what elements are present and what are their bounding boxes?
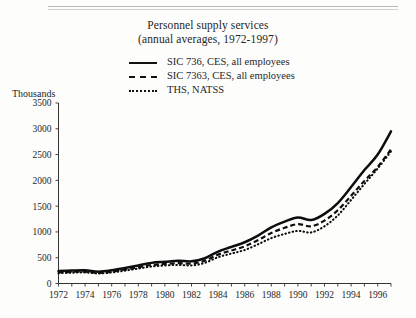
x-tick-label: 1996 [368,290,387,300]
x-axis-group: 1972197419761978198019821984198619881990… [49,284,391,300]
series-line-sic-736 [59,131,392,271]
x-tick-label: 1994 [342,290,361,300]
x-tick-label: 1976 [102,290,121,300]
series-line-ths-natss [59,151,392,273]
document-page: Personnel supply services (annual averag… [0,0,416,318]
x-tick-label: 1990 [288,290,307,300]
y-tick-label: 500 [37,253,52,263]
x-tick-group: 1972197419761978198019821984198619881990… [49,284,391,300]
x-tick-label: 1992 [315,290,334,300]
x-tick-label: 1984 [209,290,228,300]
y-tick-group: 0500100015002000250030003500 [33,98,59,289]
y-tick-label: 3500 [33,98,52,108]
x-tick-label: 1978 [129,290,148,300]
x-tick-label: 1982 [182,290,201,300]
y-tick-label: 2000 [33,176,52,186]
x-tick-label: 1974 [76,290,95,300]
series-group [59,131,392,273]
chart-plot-area: 0500100015002000250030003500 19721974197… [0,0,416,318]
y-tick-label: 1000 [33,227,52,237]
x-tick-label: 1972 [49,290,68,300]
x-tick-label: 1988 [262,290,281,300]
y-axis-group: 0500100015002000250030003500 [33,98,59,289]
y-tick-label: 3000 [33,124,52,134]
x-tick-label: 1980 [155,290,174,300]
y-tick-label: 1500 [33,202,52,212]
y-tick-label: 0 [47,279,52,289]
y-tick-label: 2500 [33,150,52,160]
x-tick-label: 1986 [235,290,254,300]
